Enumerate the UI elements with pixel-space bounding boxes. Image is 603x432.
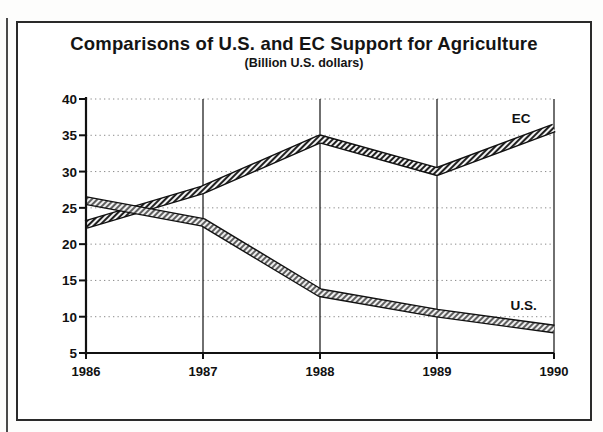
series-label-ec: EC: [512, 110, 531, 125]
series-label-us: U.S.: [510, 298, 536, 313]
x-tick-label: 1986: [72, 364, 101, 379]
y-tick-label: 15: [62, 273, 77, 288]
y-tick-label: 35: [62, 128, 77, 143]
x-tick-label: 1988: [306, 364, 335, 379]
figure-frame: Comparisons of U.S. and EC Support for A…: [16, 21, 592, 421]
x-tick-label: 1989: [423, 364, 452, 379]
chart-title: Comparisons of U.S. and EC Support for A…: [18, 33, 590, 55]
gridlines-vertical: [203, 99, 554, 353]
chart-subtitle: (Billion U.S. dollars): [18, 56, 590, 70]
scan-edge-line: [6, 18, 8, 432]
x-tick-label: 1990: [540, 364, 569, 379]
y-tick-label: 5: [69, 346, 77, 361]
y-tick-label: 40: [62, 92, 77, 107]
x-tick-label: 1987: [189, 364, 218, 379]
line-chart-svg: [86, 99, 554, 353]
y-tick-label: 10: [62, 309, 77, 324]
y-tick-label: 20: [62, 237, 77, 252]
plot-area: 510152025303540 19861987198819891990 ECU…: [86, 99, 554, 353]
y-tick-label: 30: [62, 164, 77, 179]
scanned-page-background: Comparisons of U.S. and EC Support for A…: [0, 0, 603, 432]
y-tick-label: 25: [62, 200, 77, 215]
title-block: Comparisons of U.S. and EC Support for A…: [18, 33, 590, 70]
